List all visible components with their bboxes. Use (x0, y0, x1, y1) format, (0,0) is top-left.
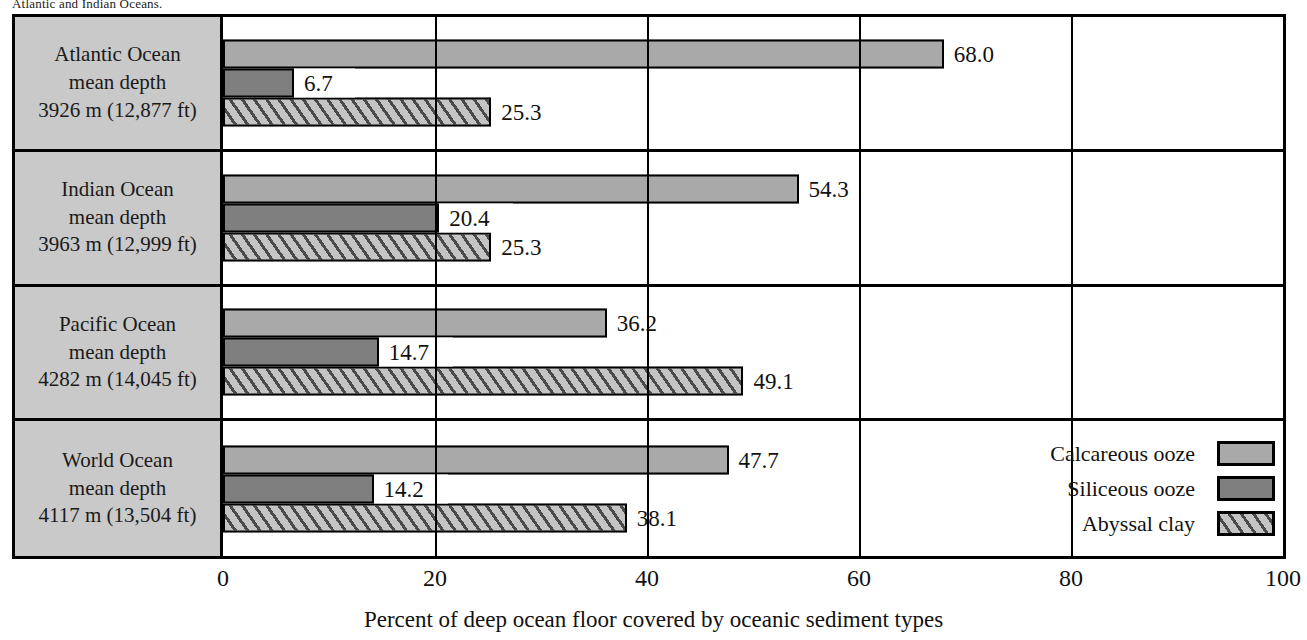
row-label-line: Atlantic Ocean (54, 41, 181, 69)
bar-value-label: 6.7 (304, 68, 333, 97)
gridline-20 (435, 152, 437, 284)
gridline-80 (1071, 17, 1073, 149)
x-tick-100: 100 (1265, 565, 1301, 592)
x-tick-80: 80 (1059, 565, 1083, 592)
row-label-line: 4282 m (14,045 ft) (38, 366, 197, 394)
bar-line: 20.4 (223, 203, 1283, 232)
gridline-60 (859, 421, 861, 556)
gridline-60 (859, 287, 861, 419)
bar-clay[interactable] (223, 367, 743, 396)
row-label-line: mean depth (69, 204, 166, 232)
row-label-line: 3926 m (12,877 ft) (38, 97, 197, 125)
row-label-line: Indian Ocean (61, 176, 174, 204)
bar-value-label: 49.1 (753, 367, 793, 396)
row-plot-area: 68.06.725.3 (223, 17, 1283, 149)
x-tick-0: 0 (217, 565, 229, 592)
bar-value-label: 14.2 (384, 474, 424, 503)
bar-stack: 68.06.725.3 (223, 39, 1283, 126)
bar-line: 68.0 (223, 39, 1283, 68)
x-axis-caption: Percent of deep ocean floor covered by o… (364, 607, 943, 633)
bar-value-label: 38.1 (637, 503, 677, 532)
row-plot-area: 36.214.749.1 (223, 287, 1283, 419)
gridline-40 (647, 421, 649, 556)
bar-value-label: 47.7 (739, 445, 779, 474)
chart-frame: Atlantic Oceanmean depth3926 m (12,877 f… (12, 14, 1286, 559)
x-axis: Percent of deep ocean floor covered by o… (0, 559, 1307, 640)
bar-calcareous[interactable] (223, 174, 799, 203)
row-label-line: mean depth (69, 339, 166, 367)
legend-label: Calcareous ooze (1050, 441, 1195, 467)
gridline-20 (435, 421, 437, 556)
gridline-80 (1071, 287, 1073, 419)
row-label-line: mean depth (69, 69, 166, 97)
row-label-4: World Oceanmean depth4117 m (13,504 ft) (15, 421, 223, 556)
bar-value-label: 25.3 (501, 232, 541, 261)
gridline-60 (859, 17, 861, 149)
chart-row: Pacific Oceanmean depth4282 m (14,045 ft… (15, 287, 1283, 422)
chart-row: Atlantic Oceanmean depth3926 m (12,877 f… (15, 17, 1283, 152)
bar-clay[interactable] (223, 97, 491, 126)
bar-value-label: 14.7 (389, 338, 429, 367)
row-plot-area: 47.714.238.1Calcareous oozeSiliceous ooz… (223, 421, 1283, 556)
bar-line: 54.3 (223, 174, 1283, 203)
bar-calcareous[interactable] (223, 39, 944, 68)
x-tick-60: 60 (847, 565, 871, 592)
chart-row: Indian Oceanmean depth3963 m (12,999 ft)… (15, 152, 1283, 287)
bar-siliceous[interactable] (223, 474, 374, 503)
legend-swatch-clay (1217, 511, 1275, 536)
bar-siliceous[interactable] (223, 338, 379, 367)
bar-clay[interactable] (223, 503, 627, 532)
legend-item-calcareous[interactable]: Calcareous ooze (1050, 441, 1275, 467)
bar-line: 49.1 (223, 367, 1283, 396)
row-label-1: Atlantic Oceanmean depth3926 m (12,877 f… (15, 17, 223, 149)
legend-label: Abyssal clay (1082, 511, 1195, 537)
row-label-line: mean depth (69, 475, 166, 503)
bar-stack: 54.320.425.3 (223, 174, 1283, 261)
legend-item-siliceous[interactable]: Siliceous ooze (1050, 476, 1275, 502)
gridline-40 (647, 287, 649, 419)
bar-value-label: 36.2 (617, 309, 657, 338)
bar-calcareous[interactable] (223, 445, 729, 474)
row-label-3: Pacific Oceanmean depth4282 m (14,045 ft… (15, 287, 223, 419)
gridline-60 (859, 152, 861, 284)
legend-swatch-siliceous (1217, 476, 1275, 501)
bar-value-label: 20.4 (449, 203, 489, 232)
bar-line: 14.7 (223, 338, 1283, 367)
bar-line: 25.3 (223, 97, 1283, 126)
bar-line: 25.3 (223, 232, 1283, 261)
row-label-line: 4117 m (13,504 ft) (39, 502, 197, 530)
bar-value-label: 54.3 (809, 174, 849, 203)
gridline-20 (435, 287, 437, 419)
bar-line: 36.2 (223, 309, 1283, 338)
bar-value-label: 68.0 (954, 39, 994, 68)
x-tick-20: 20 (423, 565, 447, 592)
row-plot-area: 54.320.425.3 (223, 152, 1283, 284)
bar-clay[interactable] (223, 232, 491, 261)
x-tick-40: 40 (635, 565, 659, 592)
gridline-40 (647, 17, 649, 149)
bar-siliceous[interactable] (223, 68, 294, 97)
legend-item-clay[interactable]: Abyssal clay (1050, 511, 1275, 537)
bar-siliceous[interactable] (223, 203, 439, 232)
gridline-20 (435, 17, 437, 149)
row-label-2: Indian Oceanmean depth3963 m (12,999 ft) (15, 152, 223, 284)
legend: Calcareous oozeSiliceous oozeAbyssal cla… (1050, 441, 1275, 537)
row-label-line: World Ocean (62, 447, 173, 475)
cut-off-caption-fragment: Atlantic and Indian Oceans. (12, 0, 163, 10)
bar-calcareous[interactable] (223, 309, 607, 338)
bar-line: 6.7 (223, 68, 1283, 97)
bar-value-label: 25.3 (501, 97, 541, 126)
legend-swatch-calcareous (1217, 441, 1275, 466)
gridline-40 (647, 152, 649, 284)
row-label-line: 3963 m (12,999 ft) (38, 231, 197, 259)
row-label-line: Pacific Ocean (59, 311, 176, 339)
chart-row: World Oceanmean depth4117 m (13,504 ft)4… (15, 421, 1283, 556)
legend-label: Siliceous ooze (1067, 476, 1195, 502)
gridline-80 (1071, 152, 1073, 284)
bar-stack: 36.214.749.1 (223, 309, 1283, 396)
